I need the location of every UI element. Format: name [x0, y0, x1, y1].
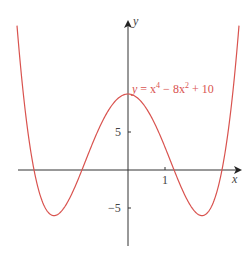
- x-tick-label-1: 1: [162, 173, 168, 187]
- eq-part3: + 10: [189, 82, 214, 96]
- equation-label: y = x4 − 8x2 + 10: [131, 81, 214, 96]
- y-tick-label-neg5: −5: [108, 201, 121, 215]
- x-axis-label: x: [231, 172, 238, 186]
- y-tick-label-5: 5: [115, 125, 121, 139]
- chart: x y 1 5 −5 y = x4 − 8x2 + 10: [0, 0, 252, 259]
- eq-part2: − 8x: [160, 82, 185, 96]
- eq-part1: = x: [137, 82, 156, 96]
- y-axis-label: y: [132, 14, 139, 28]
